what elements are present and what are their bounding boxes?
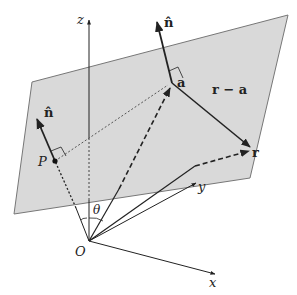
vector-r-label: r [252, 146, 259, 159]
x-axis-label: x [209, 276, 216, 289]
point-P-label: P [38, 155, 47, 168]
x-axis [89, 241, 215, 274]
vector-r-minus-a-label: r − a [212, 83, 247, 96]
theta-label: θ [93, 204, 100, 216]
vector-OP [76, 208, 89, 241]
plane-vector-diagram: z x y O θ P n̂ n̂ a r r − a [0, 0, 297, 295]
origin-label: O [75, 245, 86, 258]
normal-P-label: n̂ [44, 106, 53, 119]
vector-a-label: a [177, 76, 185, 89]
normal-a-label: n̂ [164, 16, 173, 29]
y-axis-label: y [198, 180, 205, 193]
plane [14, 15, 288, 214]
z-axis-label: z [77, 13, 84, 26]
point-P [52, 158, 57, 163]
